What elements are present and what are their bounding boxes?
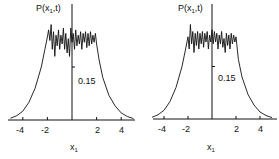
x-tick-label: -4 bbox=[158, 124, 166, 134]
y-tick-label: 0.15 bbox=[218, 73, 236, 83]
chart-panel-left: P(x1,t) 0.15 -4 -2 2 4 x1 bbox=[0, 0, 140, 159]
x-tick-label: 2 bbox=[234, 124, 239, 134]
y-tick-label: 0.15 bbox=[78, 76, 96, 86]
x-tick-label: 4 bbox=[258, 124, 263, 134]
chart-panel-right: P(x1,t) 0.15 -4 -2 2 4 x1 bbox=[140, 0, 279, 159]
x-tick-label: -2 bbox=[182, 124, 190, 134]
x-tick-label: 2 bbox=[95, 125, 100, 135]
x-tick-label: -4 bbox=[16, 125, 24, 135]
y-axis-label: P(x1,t) bbox=[36, 3, 61, 14]
chart-plot-left bbox=[0, 0, 140, 159]
chart-plot-right bbox=[140, 0, 279, 159]
x-tick-label: -2 bbox=[41, 125, 49, 135]
x-axis-label: x1 bbox=[207, 142, 215, 153]
x-tick-label: 4 bbox=[119, 125, 124, 135]
y-axis-label: P(x1,t) bbox=[178, 3, 203, 14]
x-axis-label: x1 bbox=[70, 142, 78, 153]
